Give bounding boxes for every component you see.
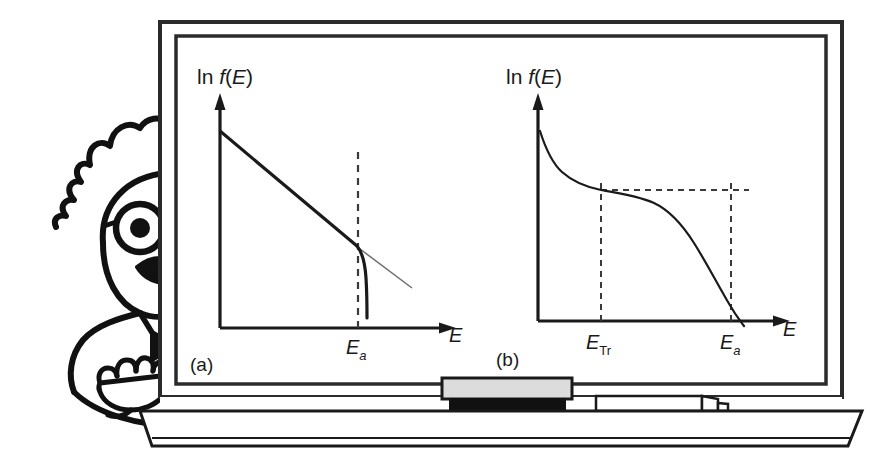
chalk-stick [596,396,728,411]
panel-a-label: (a) [190,354,213,375]
illustration-canvas: Ea E ln f(E) (a) ETr [0,0,870,469]
panel-b-yaxis-label: ln f(E) [506,65,562,88]
panel-a-xaxis-label: E [449,324,463,346]
panel-a-yaxis-label: ln f(E) [197,65,253,88]
chalk-tray [140,411,862,446]
chalkboard-eraser [442,378,572,413]
blackboard-scene: Ea E ln f(E) (a) ETr [0,0,870,469]
panel-b-xaxis-label: E [783,318,797,340]
glasses-left-pupil-icon [130,218,150,238]
panel-b-label: (b) [496,349,519,370]
eraser-top-felt [442,378,572,399]
